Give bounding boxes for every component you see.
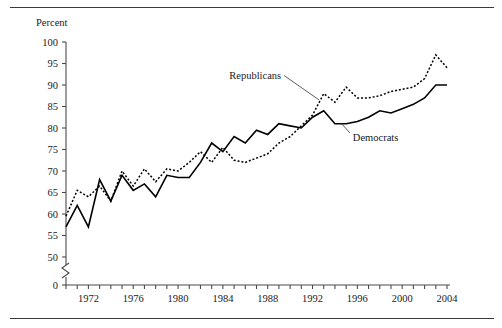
x-tick-label: 1972 xyxy=(78,293,99,304)
y-tick-label: 100 xyxy=(42,37,58,48)
series-line-democrats xyxy=(66,85,447,227)
line-chart: Percent 050556065707580859095100 1972197… xyxy=(0,0,502,328)
x-tick-label: 1980 xyxy=(168,293,189,304)
y-axis-break-mark xyxy=(62,263,69,278)
y-axis-title: Percent xyxy=(36,17,68,28)
y-tick-label: 90 xyxy=(48,80,59,91)
y-axis-ticks: 050556065707580859095100 xyxy=(42,37,66,291)
y-tick-label: 70 xyxy=(48,166,59,177)
y-tick-label: 85 xyxy=(48,101,59,112)
y-tick-label: 95 xyxy=(48,58,59,69)
annotation-leader-republicans xyxy=(284,76,319,101)
x-tick-label: 1984 xyxy=(212,293,234,304)
y-tick-label: 75 xyxy=(48,144,59,155)
x-tick-label: 1996 xyxy=(347,293,368,304)
x-tick-label: 2004 xyxy=(437,293,459,304)
x-tick-label: 1988 xyxy=(257,293,278,304)
figure-container: Percent 050556065707580859095100 1972197… xyxy=(0,0,502,328)
y-tick-label: 50 xyxy=(48,252,59,263)
y-tick-label: 60 xyxy=(48,209,59,220)
y-tick-label: 0 xyxy=(53,280,58,291)
y-tick-label: 65 xyxy=(48,187,59,198)
x-tick-label: 1992 xyxy=(302,293,323,304)
y-axis-title-group: Percent xyxy=(36,17,68,28)
y-tick-label: 55 xyxy=(48,230,59,241)
annotation-label-republicans: Republicans xyxy=(229,70,281,81)
annotation-leader-democrats xyxy=(342,124,350,133)
annotation-label-democrats: Democrats xyxy=(353,132,398,143)
x-axis-ticks: 197219761980198419881992199620002004 xyxy=(66,285,458,304)
y-tick-label: 80 xyxy=(48,123,59,134)
x-tick-label: 1976 xyxy=(123,293,144,304)
x-tick-label: 2000 xyxy=(392,293,413,304)
